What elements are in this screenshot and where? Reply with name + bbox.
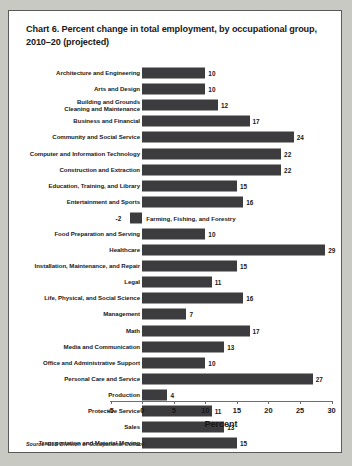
bar: [130, 212, 143, 223]
x-axis-tick: [111, 401, 112, 404]
x-axis-tick: [268, 401, 269, 404]
chart-row: Food Preparation and Serving10: [9, 226, 343, 242]
x-axis-tick: [332, 401, 333, 404]
bar: [142, 277, 211, 288]
chart-row: Life, Physical, and Social Science16: [9, 290, 343, 306]
chart-row: Construction and Extraction22: [9, 162, 343, 178]
bar: [142, 373, 312, 384]
bar-value-label: 10: [208, 70, 215, 77]
bar: [142, 116, 249, 127]
category-label: Production: [0, 391, 140, 398]
bar-value-label: 15: [240, 182, 247, 189]
category-label: Business and Financial: [0, 118, 140, 125]
chart-row: Personal Care and Service27: [9, 371, 343, 387]
x-axis-tick: [142, 401, 143, 404]
x-axis-tick-label: 15: [233, 406, 241, 415]
bar: [142, 309, 186, 320]
x-axis-title: Percent: [110, 419, 332, 429]
bar: [142, 180, 237, 191]
x-axis-tick-label: -5: [107, 406, 114, 415]
bar-value-label: 15: [240, 440, 247, 447]
bar-value-label: -2: [116, 214, 122, 221]
chart-row: Entertainment and Sports16: [9, 194, 343, 210]
x-axis-tick: [237, 401, 238, 404]
bar: [142, 438, 237, 449]
category-label: Personal Care and Service: [0, 375, 140, 382]
bar-value-label: 10: [208, 230, 215, 237]
chart-row: Office and Administrative Support10: [9, 355, 343, 371]
bar: [142, 196, 243, 207]
category-label: Installation, Maintenance, and Repair: [0, 263, 140, 270]
category-label: Management: [0, 311, 140, 318]
chart-row: Community and Social Service24: [9, 129, 343, 145]
bar-value-label: 10: [208, 359, 215, 366]
bar-value-label: 11: [215, 408, 222, 415]
x-axis-tick-label: 5: [172, 406, 176, 415]
category-label: Community and Social Service: [0, 134, 140, 141]
chart-row: Legal11: [9, 274, 343, 290]
bar-value-label: 7: [189, 311, 193, 318]
x-axis-tick-label: 0: [140, 406, 144, 415]
category-label: Computer and Information Technology: [0, 150, 140, 157]
bar: [142, 389, 167, 400]
category-label: Architecture and Engineering: [0, 69, 140, 76]
bar: [142, 261, 237, 272]
chart-row: Math17: [9, 323, 343, 339]
category-label: Life, Physical, and Social Science: [0, 295, 140, 302]
bar: [142, 164, 281, 175]
chart-row: Arts and Design10: [9, 81, 343, 97]
bar: [142, 132, 294, 143]
bar: [142, 245, 325, 256]
bar-value-label: 24: [297, 134, 304, 141]
chart-row: Healthcare29: [9, 242, 343, 258]
category-label: Construction and Extraction: [0, 166, 140, 173]
category-label: Legal: [0, 279, 140, 286]
x-axis-tick-label: 25: [296, 406, 304, 415]
bar-value-label: 17: [253, 118, 260, 125]
bar-value-label: 4: [170, 391, 174, 398]
category-label: Arts and Design: [0, 86, 140, 93]
bar: [142, 228, 205, 239]
category-label: Food Preparation and Serving: [0, 230, 140, 237]
chart-card: Chart 6. Percent change in total employm…: [8, 10, 342, 453]
category-label: Math: [0, 327, 140, 334]
bar: [142, 148, 281, 159]
chart-row: Computer and Information Technology22: [9, 145, 343, 161]
chart-title: Chart 6. Percent change in total employm…: [26, 23, 326, 48]
bar-value-label: 16: [246, 198, 253, 205]
bar-value-label: 29: [328, 247, 335, 254]
x-axis-line: [110, 401, 332, 402]
bar-value-label: 12: [221, 102, 228, 109]
bar: [142, 357, 205, 368]
bar: [142, 100, 218, 111]
x-axis-tick: [205, 401, 206, 404]
chart-row: Business and Financial17: [9, 113, 343, 129]
chart-row: Protective Service11: [9, 403, 343, 419]
chart-row: Installation, Maintenance, and Repair15: [9, 258, 343, 274]
chart-page: Chart 6. Percent change in total employm…: [0, 0, 352, 466]
chart-row: Building and Grounds Cleaning and Mainte…: [9, 97, 343, 113]
x-axis-tick: [174, 401, 175, 404]
category-label: Healthcare: [0, 246, 140, 253]
chart-row: Media and Communication13: [9, 339, 343, 355]
category-label: Protective Service: [0, 407, 140, 414]
bar-value-label: 13: [227, 343, 234, 350]
category-label: Media and Communication: [0, 343, 140, 350]
bar-value-label: 17: [253, 327, 260, 334]
category-label: Entertainment and Sports: [0, 198, 140, 205]
bar-value-label: 11: [215, 279, 222, 286]
category-label: Building and Grounds Cleaning and Mainte…: [0, 98, 140, 112]
category-label: Office and Administrative Support: [0, 359, 140, 366]
chart-row: Architecture and Engineering10: [9, 65, 343, 81]
bar: [142, 84, 205, 95]
bar-value-label: 10: [208, 86, 215, 93]
bar-value-label: 22: [284, 150, 291, 157]
bar-value-label: 27: [316, 375, 323, 382]
bar: [142, 325, 249, 336]
bar: [142, 293, 243, 304]
plot-area: Architecture and Engineering10Arts and D…: [9, 65, 343, 401]
category-label-inline: Farming, Fishing, and Forestry: [146, 214, 235, 221]
x-axis-tick-label: 30: [328, 406, 336, 415]
category-label: Education, Training, and Library: [0, 182, 140, 189]
chart-row: Education, Training, and Library15: [9, 178, 343, 194]
